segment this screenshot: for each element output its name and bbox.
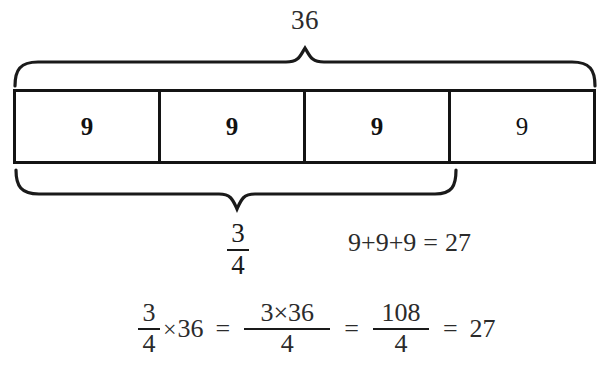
fraction-numerator: 3 [227,220,249,248]
fraction-numerator: 3 [139,300,160,327]
equation-fraction-three-fourths: 3 4 [138,300,160,357]
bar-cell: 9 [451,92,593,161]
fraction-bar-model-figure: 36 9 9 9 9 3 4 9+9+9= [0,0,610,365]
repeated-addition-line: 9+9+9=27 [348,228,471,258]
addition-terms: 9+9+9 [348,228,416,257]
bottom-brace-fraction-label: 3 4 [208,220,268,279]
bar-cell-value: 9 [516,114,529,139]
partitioned-bar: 9 9 9 9 [13,89,596,164]
fraction-numerator: 108 [377,300,424,327]
bar-cell: 9 [161,92,306,161]
equation-fraction-step-1: 3×36 4 [244,300,330,357]
total-value-label: 36 [0,4,610,36]
fraction-denominator: 4 [227,252,249,280]
equation-fraction-step-2: 108 4 [373,300,429,357]
equals-sign-3: = [431,316,470,342]
equals-sign-2: = [332,316,371,342]
bar-cell: 9 [306,92,451,161]
multiplicand: 36 [178,316,204,342]
top-brace-icon [15,48,595,86]
multiplication-sign: × [162,317,178,341]
equation-result: 27 [470,316,496,342]
fraction-denominator: 4 [139,331,160,358]
fraction-denominator: 4 [390,331,411,358]
equals-sign-1: = [204,316,243,342]
bar-cell-value: 9 [371,114,384,139]
bar-cell-value: 9 [81,114,94,139]
bottom-brace-icon [16,170,456,209]
fraction-denominator: 4 [277,331,298,358]
fraction-three-fourths: 3 4 [227,220,249,279]
bar-cell-value: 9 [226,114,239,139]
bar-cell: 9 [16,92,161,161]
fraction-numerator: 3×36 [256,300,318,327]
addition-result: 27 [445,228,471,257]
multiplication-equation: 3 4 × 36 = 3×36 4 = 108 4 = 27 [136,300,496,357]
equals-sign: = [416,228,445,257]
